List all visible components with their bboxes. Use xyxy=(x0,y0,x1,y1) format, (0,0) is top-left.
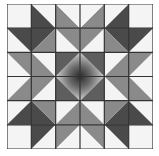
quilt-cell-r5-c0 xyxy=(7,125,31,149)
quilt-cell-r0-c5 xyxy=(129,4,153,28)
quilt-cell-r5-c5 xyxy=(129,125,153,149)
quilt-block xyxy=(7,4,153,149)
quilt-svg xyxy=(7,4,153,149)
quilt-cell-r0-c0 xyxy=(7,4,31,28)
